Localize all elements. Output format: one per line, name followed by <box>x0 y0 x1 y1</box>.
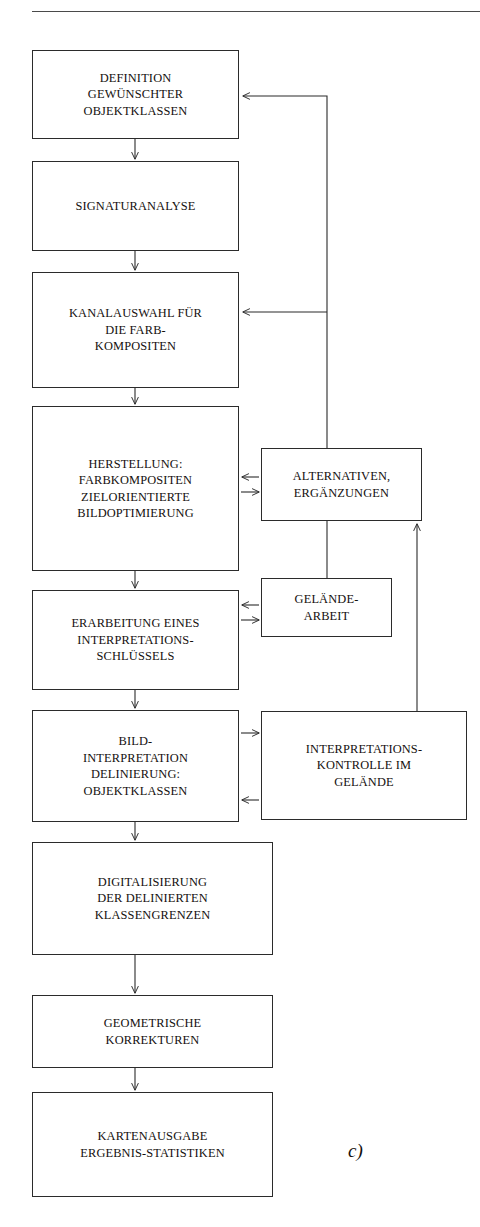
node-kanalauswahl[interactable]: KANALAUSWAHL FÜR DIE FARB- KOMPOSITEN <box>32 272 239 388</box>
node-erarbeitung-label: ERARBEITUNG EINES INTERPRETATIONS- SCHLÜ… <box>71 615 199 665</box>
figure-canvas: DEFINITION GEWÜNSCHTER OBJEKTKLASSEN SIG… <box>0 0 480 1227</box>
node-signaturanalyse-label: SIGNATURANALYSE <box>75 198 195 215</box>
node-bildinterpretation-label: BILD- INTERPRETATION DELINIERUNG: OBJEKT… <box>83 733 188 799</box>
node-gelaendearbeit[interactable]: GELÄNDE- ARBEIT <box>261 578 392 637</box>
node-erarbeitung[interactable]: ERARBEITUNG EINES INTERPRETATIONS- SCHLÜ… <box>32 590 239 690</box>
node-kartenausgabe-label: KARTENAUSGABE ERGEBNIS-STATISTIKEN <box>80 1128 225 1161</box>
node-alternativen-label: ALTERNATIVEN, ERGÄNZUNGEN <box>293 468 391 501</box>
node-interpretationskontrolle-label: INTERPRETATIONS- KONTROLLE IM GELÄNDE <box>306 741 422 791</box>
node-alternativen[interactable]: ALTERNATIVEN, ERGÄNZUNGEN <box>261 448 422 521</box>
node-digitalisierung-label: DIGITALISIERUNG DER DELINIERTEN KLASSENG… <box>95 874 211 924</box>
node-kanalauswahl-label: KANALAUSWAHL FÜR DIE FARB- KOMPOSITEN <box>69 305 202 355</box>
node-herstellung-label: HERSTELLUNG: FARBKOMPOSITEN ZIELORIENTIE… <box>77 456 194 522</box>
node-definition[interactable]: DEFINITION GEWÜNSCHTER OBJEKTKLASSEN <box>32 50 239 139</box>
node-gelaendearbeit-label: GELÄNDE- ARBEIT <box>295 591 359 624</box>
node-kartenausgabe[interactable]: KARTENAUSGABE ERGEBNIS-STATISTIKEN <box>32 1092 273 1197</box>
node-geometrische[interactable]: GEOMETRISCHE KORREKTUREN <box>32 995 273 1068</box>
node-interpretationskontrolle[interactable]: INTERPRETATIONS- KONTROLLE IM GELÄNDE <box>261 711 467 820</box>
node-bildinterpretation[interactable]: BILD- INTERPRETATION DELINIERUNG: OBJEKT… <box>32 710 239 822</box>
node-signaturanalyse[interactable]: SIGNATURANALYSE <box>32 161 239 251</box>
figure-part-label: c) <box>348 1140 363 1162</box>
node-digitalisierung[interactable]: DIGITALISIERUNG DER DELINIERTEN KLASSENG… <box>32 842 273 955</box>
edge-alternativen-to-definition <box>243 96 327 448</box>
node-geometrische-label: GEOMETRISCHE KORREKTUREN <box>104 1015 201 1048</box>
node-definition-label: DEFINITION GEWÜNSCHTER OBJEKTKLASSEN <box>84 70 188 120</box>
node-herstellung[interactable]: HERSTELLUNG: FARBKOMPOSITEN ZIELORIENTIE… <box>32 406 239 571</box>
